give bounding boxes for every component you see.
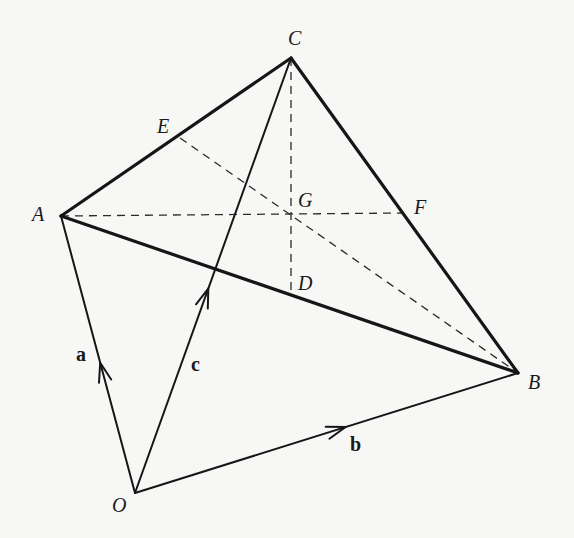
dashed-line-af bbox=[61, 213, 404, 216]
label-e: E bbox=[156, 115, 169, 137]
edge-ab bbox=[61, 216, 518, 373]
vector-labels: a b c bbox=[76, 343, 361, 455]
edge-cb bbox=[291, 58, 518, 373]
point-labels: O A B C D E F G bbox=[30, 27, 540, 516]
tetrahedron-diagram: O A B C D E F G a b c bbox=[0, 0, 574, 538]
dashed-lines bbox=[61, 58, 518, 373]
dashed-line-eb bbox=[180, 138, 518, 373]
label-c-point: C bbox=[288, 27, 302, 49]
vector-label-c: c bbox=[191, 353, 200, 375]
label-b-point: B bbox=[528, 371, 540, 393]
label-a-point: A bbox=[30, 203, 45, 225]
vector-label-b: b bbox=[350, 433, 361, 455]
edge-oa bbox=[61, 216, 135, 493]
vector-label-a: a bbox=[76, 343, 86, 365]
label-f: F bbox=[413, 196, 427, 218]
arrowheads bbox=[99, 289, 346, 439]
edge-ac bbox=[61, 58, 291, 216]
label-o: O bbox=[112, 494, 126, 516]
edge-ob bbox=[135, 373, 518, 493]
label-d: D bbox=[297, 272, 313, 294]
label-g: G bbox=[298, 189, 313, 211]
